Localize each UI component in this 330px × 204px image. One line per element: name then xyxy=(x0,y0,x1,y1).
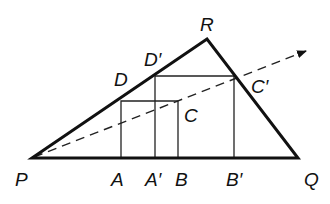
label-d: D xyxy=(114,70,128,89)
diagram-figure xyxy=(0,0,330,204)
geometry-diagram: R D′ D C′ C P A A′ B B′ Q xyxy=(0,0,330,204)
small-square xyxy=(121,101,178,158)
label-a-prime: A′ xyxy=(145,170,161,189)
label-p: P xyxy=(15,170,28,189)
label-a: A xyxy=(111,170,124,189)
label-b: B xyxy=(175,170,188,189)
dashed-ray xyxy=(34,51,306,157)
label-d-prime: D′ xyxy=(144,50,161,69)
label-c: C xyxy=(184,106,198,125)
label-r: R xyxy=(200,15,214,34)
label-q: Q xyxy=(304,170,319,189)
triangle-pqr xyxy=(32,39,298,158)
label-c-prime: C′ xyxy=(251,77,268,96)
label-b-prime: B′ xyxy=(226,170,242,189)
